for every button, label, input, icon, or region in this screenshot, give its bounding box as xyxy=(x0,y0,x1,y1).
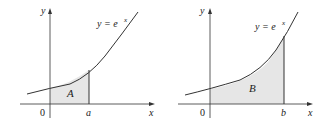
x-axis-label: x xyxy=(148,107,154,118)
curve-exponent: x xyxy=(123,16,128,24)
x-axis-label: x xyxy=(307,107,313,118)
region-a-label: A xyxy=(66,87,74,99)
origin-label: 0 xyxy=(40,107,45,118)
origin-label: 0 xyxy=(200,107,205,118)
y-axis-arrow-icon xyxy=(48,8,52,14)
curve-label: y = e xyxy=(96,18,118,29)
curve-exponent: x xyxy=(281,19,286,27)
y-axis-arrow-icon xyxy=(208,8,212,14)
right-figure: y x 0 b B y = e x xyxy=(178,5,313,118)
y-axis-label: y xyxy=(40,5,46,16)
diagram-canvas: y x 0 a A y = e x y x 0 b B y = e x xyxy=(0,0,330,123)
bound-b-label: b xyxy=(281,107,286,118)
x-axis-arrow-icon xyxy=(149,102,155,106)
curve-label: y = e xyxy=(254,21,276,32)
region-b-fill xyxy=(210,36,284,104)
region-b-label: B xyxy=(249,82,256,94)
y-axis-label: y xyxy=(199,5,205,16)
x-axis-arrow-icon xyxy=(307,102,313,106)
left-figure: y x 0 a A y = e x xyxy=(20,5,155,118)
bound-a-label: a xyxy=(86,107,91,118)
